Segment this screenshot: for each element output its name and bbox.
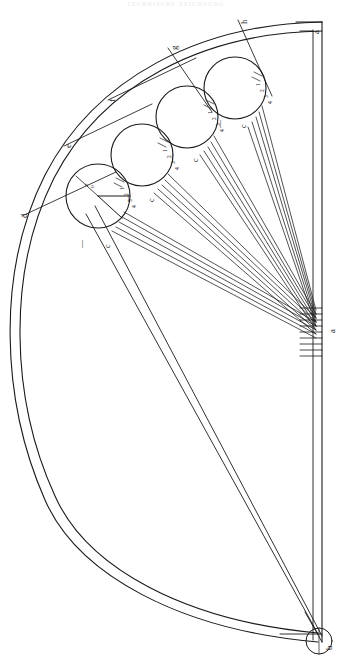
circle-4-tick-1: 1 [256,83,262,86]
ray-bundle-4 [248,106,316,326]
label-ray-h: h [240,20,249,25]
outer-arc-line [10,22,322,642]
circle-3 [156,86,218,148]
circle-2 [111,124,173,186]
circle-2-tick-1: 1 [163,149,169,152]
label-ray-d: d [20,214,29,219]
circle-2-dash: — [124,194,132,202]
circle-4-tick-4: 4 [268,101,274,104]
circle-3-tick-4: 4 [220,129,226,132]
page-header-text: TECHNISCHE ZEICHNUNG [0,1,352,7]
circle-tick-marks [114,72,262,187]
inner-arc-line [20,31,322,633]
circle-1-tick-4: 4 [132,205,138,208]
label-bottom-b: b [325,646,334,651]
label-ray-e: e [64,144,73,148]
circle-4-c: c [240,124,248,128]
label-ray-g: g [170,46,179,51]
circle-1-mark-o: o [90,185,96,188]
circle-1-mark-e: e [84,184,90,186]
apex-horizontal-lines [300,308,322,356]
diagram-canvas: TECHNISCHE ZEICHNUNG [0,0,352,667]
circle-3-dash: — [168,154,176,162]
ray-line-f [108,58,196,100]
chord-short [305,612,322,642]
label-corner-a: a [312,30,321,34]
circle-2-c: c [148,198,156,202]
ray-line-e [64,104,152,146]
circle-1-c: c [104,244,112,248]
circle-4-tick-2: 2 [260,89,266,92]
circle-4-dash: — [216,120,224,128]
label-ray-f: f [108,99,117,102]
circle-3-tick-1: 1 [208,111,214,114]
circle-4 [204,57,266,119]
circle-1-dash: — [78,240,86,248]
ray-bundle-1 [112,212,316,338]
circle-2-tick-4: 4 [175,167,181,170]
circle-1-tick-1: 1 [120,187,126,190]
technical-drawing [0,0,352,667]
circle-4-tick-3: 3 [264,95,270,98]
circle-3-c: c [192,158,200,162]
label-apex-a: a [328,329,337,333]
